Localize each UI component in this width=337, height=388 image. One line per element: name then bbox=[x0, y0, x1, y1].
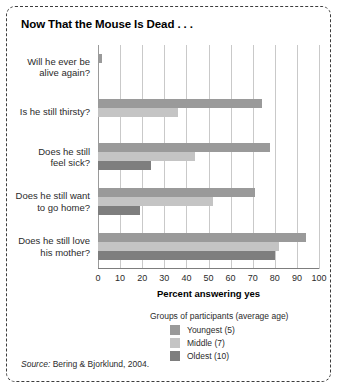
category-label-line: Does he still love bbox=[6, 235, 90, 247]
bar bbox=[98, 99, 262, 108]
legend: Groups of participants (average age) You… bbox=[150, 311, 320, 363]
source-text: Bering & Bjorklund, 2004. bbox=[50, 359, 149, 369]
category-label-line: alive again? bbox=[6, 67, 90, 79]
legend-label: Oldest (10) bbox=[187, 351, 229, 361]
category-label-line: feel sick? bbox=[6, 157, 90, 169]
category-label: Does he still wantto go home? bbox=[6, 190, 90, 213]
category-label-line: Will he ever be bbox=[6, 56, 90, 68]
legend-label: Middle (7) bbox=[187, 338, 225, 348]
legend-swatch bbox=[170, 325, 180, 335]
legend-title: Groups of participants (average age) bbox=[150, 311, 320, 321]
category-group bbox=[98, 45, 319, 90]
legend-item: Middle (7) bbox=[150, 337, 320, 349]
x-axis-line bbox=[98, 268, 319, 269]
category-label: Does he still lovehis mother? bbox=[6, 235, 90, 258]
source-prefix: Source: bbox=[21, 359, 50, 369]
figure-panel: Now That the Mouse Is Dead . . . Will he… bbox=[6, 6, 331, 382]
category-label-line: Does he still want bbox=[6, 190, 90, 202]
category-group bbox=[98, 224, 319, 269]
bar bbox=[98, 54, 102, 63]
legend-entries: Youngest (5)Middle (7)Oldest (10) bbox=[150, 324, 320, 362]
category-group bbox=[98, 90, 319, 135]
bar bbox=[98, 197, 213, 206]
gridline-100 bbox=[319, 45, 320, 269]
chart-panel: Now That the Mouse Is Dead . . . Will he… bbox=[7, 7, 330, 381]
bar bbox=[98, 242, 279, 251]
category-label: Does he stillfeel sick? bbox=[6, 146, 90, 169]
category-label: Will he ever bealive again? bbox=[6, 56, 90, 79]
category-label-line: to go home? bbox=[6, 202, 90, 214]
legend-label: Youngest (5) bbox=[187, 325, 235, 335]
bar bbox=[98, 251, 275, 260]
category-label-line: Does he still bbox=[6, 146, 90, 158]
category-label-line: his mother? bbox=[6, 247, 90, 259]
bar bbox=[98, 206, 140, 215]
source-note: Source: Bering & Bjorklund, 2004. bbox=[21, 359, 149, 369]
page-title: Now That the Mouse Is Dead . . . bbox=[21, 18, 193, 30]
category-group bbox=[98, 135, 319, 180]
legend-item: Youngest (5) bbox=[150, 324, 320, 336]
category-group bbox=[98, 179, 319, 224]
x-tick-label: 100 bbox=[304, 273, 331, 283]
category-label-line: Is he still thirsty? bbox=[6, 106, 90, 118]
bar bbox=[98, 233, 306, 242]
bar bbox=[98, 143, 270, 152]
legend-swatch bbox=[170, 351, 180, 361]
bar bbox=[98, 188, 255, 197]
legend-swatch bbox=[170, 338, 180, 348]
plot-area bbox=[98, 45, 319, 269]
category-label: Is he still thirsty? bbox=[6, 106, 90, 118]
bar bbox=[98, 108, 178, 117]
x-axis-label: Percent answering yes bbox=[98, 288, 319, 299]
bar bbox=[98, 152, 195, 161]
bar bbox=[98, 161, 151, 170]
legend-item: Oldest (10) bbox=[150, 350, 320, 362]
